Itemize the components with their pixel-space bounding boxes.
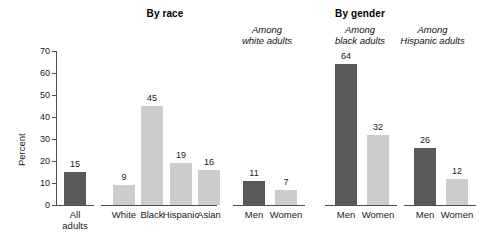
y-tick-20 (52, 161, 56, 162)
subtitle-black-line2: black adults (335, 35, 385, 46)
group-subtitle-white-adults: Among white adults (222, 24, 312, 46)
cat-label-all-adults-line1: All (70, 209, 81, 220)
bar-value-race-hispanic: 19 (166, 150, 196, 160)
bar-value-white-men: 11 (239, 168, 269, 178)
y-axis-line (56, 51, 57, 206)
y-tick-label-0: 0 (24, 200, 50, 210)
y-tick-50 (52, 95, 56, 96)
y-tick-label-30: 30 (24, 134, 50, 144)
section-title-by-race: By race (120, 8, 210, 19)
bar-white-men (243, 181, 265, 205)
bar-race-asian (198, 170, 220, 205)
y-tick-10 (52, 183, 56, 184)
y-tick-label-70: 70 (24, 46, 50, 56)
bar-value-white-women: 7 (271, 177, 301, 187)
bar-value-black-men: 64 (331, 51, 361, 61)
bar-white-women (275, 190, 297, 205)
baseline-white-adults (233, 205, 305, 206)
bar-value-race-white: 9 (109, 172, 139, 182)
bar-hispanic-women (446, 179, 468, 205)
y-tick-label-50: 50 (24, 90, 50, 100)
bar-black-women (367, 135, 389, 205)
baseline-by-race (101, 205, 217, 206)
subtitle-hispanic-line1: Among (417, 24, 447, 35)
subtitle-hispanic-line2: Hispanic adults (400, 35, 464, 46)
bar-race-white (113, 185, 135, 205)
bar-value-race-black: 45 (137, 93, 167, 103)
bar-race-hispanic (170, 163, 192, 205)
y-tick-label-40: 40 (24, 112, 50, 122)
y-tick-label-60: 60 (24, 68, 50, 78)
bar-race-black (141, 106, 163, 205)
y-tick-40 (52, 117, 56, 118)
bar-value-hispanic-men: 26 (410, 135, 440, 145)
bar-black-men (335, 64, 357, 205)
bar-all-adults (64, 172, 86, 205)
bar-value-black-women: 32 (363, 122, 393, 132)
y-tick-70 (52, 51, 56, 52)
cat-label-race-asian: Asian (191, 209, 227, 220)
subtitle-black-line1: Among (345, 24, 375, 35)
bar-value-all-adults: 15 (60, 159, 90, 169)
bar-value-race-asian: 16 (194, 157, 224, 167)
baseline-all-adults (56, 205, 94, 206)
cat-label-hispanic-women: Women (435, 209, 479, 220)
y-tick-label-10: 10 (24, 178, 50, 188)
y-tick-label-20: 20 (24, 156, 50, 166)
bar-value-hispanic-women: 12 (442, 166, 472, 176)
baseline-black-adults (325, 205, 397, 206)
bar-hispanic-men (414, 148, 436, 205)
subtitle-white-line2: white adults (242, 35, 292, 46)
baseline-hispanic-adults (404, 205, 476, 206)
cat-label-white-women: Women (264, 209, 308, 220)
section-title-by-gender: By gender (315, 8, 405, 19)
subtitle-white-line1: Among (252, 24, 282, 35)
bar-chart: By race By gender Among white adults Amo… (0, 0, 480, 243)
y-tick-60 (52, 73, 56, 74)
cat-label-all-adults-line2: adults (62, 220, 87, 231)
group-subtitle-hispanic-adults: Among Hispanic adults (385, 24, 480, 46)
cat-label-black-women: Women (356, 209, 400, 220)
cat-label-all-adults: All adults (55, 209, 95, 231)
y-tick-30 (52, 139, 56, 140)
